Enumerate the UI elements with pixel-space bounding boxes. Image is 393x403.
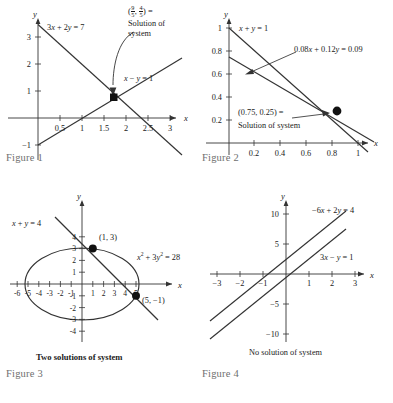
x-tick-label: 3 [353, 279, 357, 288]
figure-2-caption: Figure 2 [202, 152, 239, 163]
solution-annotation-point: (95, 45) = [128, 5, 153, 19]
y-tick-label: −5 [270, 300, 279, 309]
x-axis-label: x [183, 113, 188, 123]
x-tick-label: −3 [213, 279, 222, 288]
equation-label-x-plus-y-1: x + y = 1 [239, 24, 268, 33]
figure-2-plot: 0.2 0.4 0.6 0.8 1 0.2 0.4 0.6 0.8 1 x y [196, 0, 393, 175]
y-tick-label: -1 [70, 292, 77, 301]
x-arrow-icon [362, 141, 368, 146]
x-tick-label: 1 [356, 149, 360, 158]
equation-label-3x-minus-y-1: 3x − y = 1 [320, 253, 353, 262]
axes [8, 20, 176, 160]
figure-2: 0.2 0.4 0.6 0.8 1 0.2 0.4 0.6 0.8 1 x y … [196, 0, 393, 175]
x-axis-label: x [369, 270, 374, 280]
y-tick-label: 1 [218, 24, 222, 33]
x-tick-label: 3 [168, 124, 172, 133]
y-tick-label: -3 [70, 315, 77, 324]
figure-4-caption: Figure 4 [202, 368, 239, 379]
y-tick-label: 2 [27, 60, 31, 69]
x-tick-label: 4 [123, 289, 127, 298]
figure-3: -6 -5 -4 -3 -2 -1 1 2 3 4 5 1 2 3 4 -1 -… [0, 182, 196, 403]
x-arrow-icon [170, 116, 176, 121]
y-tick-label: 0.8 [212, 47, 222, 56]
y-axis-label: y [223, 9, 228, 19]
equation-label-3x-2y-7: 3x + 2y = 7 [47, 23, 85, 32]
x-tick-label: 1 [91, 289, 95, 298]
x-tick-label: -5 [25, 289, 32, 298]
y-tick-label: 0.6 [212, 70, 222, 79]
x-tick-label: 2 [124, 124, 128, 133]
y-tick-label: 1 [27, 87, 31, 96]
figure-3-caption: Figure 3 [6, 368, 43, 379]
y-tick-label: −10 [266, 330, 279, 339]
x-tick-label: −1 [259, 279, 268, 288]
callout-arrowhead-icon [245, 69, 254, 75]
equation-label-x-plus-y-4: x + y = 4 [12, 219, 41, 228]
axes [206, 20, 368, 155]
y-tick-label: 3 [27, 33, 31, 42]
y-tick-label: 10 [271, 210, 279, 219]
y-axis-label: y [280, 191, 285, 201]
y-tick-label: 5 [275, 240, 279, 249]
equation-label-x2-3y2-28: x2 + 3y2 = 28 [137, 251, 180, 262]
x-tick-label: 2 [102, 289, 106, 298]
x-tick-label: −2 [236, 279, 245, 288]
x-arrow-icon [166, 282, 172, 287]
x-tick-label: 0.2 [249, 149, 259, 158]
y-axis-label: y [32, 9, 37, 19]
y-tick-label: 0.4 [212, 93, 223, 102]
x-tick-label: -3 [46, 289, 53, 298]
solution-annotation-text: Solution ofsystem [128, 19, 165, 39]
x-tick-label: -2 [57, 289, 64, 298]
x-tick-label: 0.6 [301, 149, 311, 158]
intersection-point-1-3 [89, 245, 97, 253]
x-axis-label: x [177, 280, 182, 290]
x-tick-label: 0.5 [55, 124, 65, 133]
line-3x-2y-7 [38, 25, 182, 156]
y-axis-label: y [76, 191, 81, 201]
equation-label-008x-012y-009: 0.08x + 0.12y = 0.09 [294, 45, 363, 54]
x-tick-label: 1 [307, 279, 311, 288]
y-tick-label: 0.2 [212, 116, 222, 125]
solution-annotation-text: Solution of system [238, 121, 300, 131]
x-arrow-icon [358, 272, 364, 277]
y-tick-label: 4 [72, 233, 76, 242]
y-tick-label: -2 [70, 304, 77, 313]
solution-point-marker [333, 107, 342, 116]
figure-1-caption: Figure 1 [6, 152, 43, 163]
solution-point-marker [110, 94, 118, 102]
x-tick-label: 1.5 [99, 124, 109, 133]
x-axis-label: x [373, 138, 378, 148]
y-tick-label: -4 [70, 327, 77, 336]
equation-label-x-y-1: x − y = 1 [124, 74, 153, 83]
figure-4-status: No solution of system [249, 348, 322, 358]
point-label-5-neg1: (5, −1) [142, 296, 165, 306]
y-tick-label: −1 [22, 141, 31, 150]
y-tick-label: 2 [72, 256, 76, 265]
figure-1: 0.5 1 1.5 2 2.5 3 1 2 3 −1 x y 3x + 2y =… [0, 0, 196, 175]
solution-annotation-point: (0.75, 0.25) = [238, 108, 283, 118]
x-tick-label: 1 [80, 124, 84, 133]
x-tick-label: 5 [134, 289, 138, 298]
x-tick-label: -4 [36, 289, 43, 298]
figure-4: −1 −2 −3 1 2 3 5 10 −5 −10 x y −6x + 2y … [196, 182, 393, 403]
figure-1-plot: 0.5 1 1.5 2 2.5 3 1 2 3 −1 x y [0, 0, 196, 175]
y-tick-label: 3 [72, 244, 76, 253]
figure-3-status: Two solutions of system [36, 352, 123, 362]
point-label-1-3: (1, 3) [99, 233, 117, 243]
callout-arrow-line1 [251, 52, 296, 72]
x-tick-label: -6 [14, 289, 21, 298]
x-tick-label: 0.8 [327, 149, 337, 158]
y-tick-label: 1 [72, 268, 76, 277]
callout-arrow-solution [292, 114, 324, 118]
x-tick-label: 0.4 [275, 149, 286, 158]
equation-label-neg6x-2y-4: −6x + 2y = 4 [312, 206, 354, 215]
x-tick-label: 3 [113, 289, 117, 298]
x-tick-label: 2.5 [143, 124, 153, 133]
x-tick-label: 2 [330, 279, 334, 288]
